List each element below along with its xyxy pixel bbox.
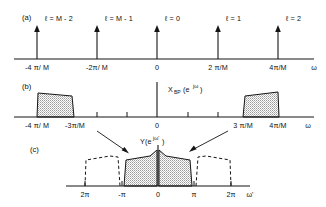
signal-label-main: Y(e: [140, 137, 152, 146]
panel-b-band-left: [37, 93, 74, 117]
pointer-right-line: [192, 131, 228, 150]
panel-b-signal-label: X BP (e jω ): [168, 83, 203, 95]
panel-a-axis-label: ω: [311, 63, 317, 72]
panel-c-band-dashed-right: [196, 156, 231, 186]
panel-b-tick-0: -4 π/ M: [25, 121, 49, 130]
panel-b: (b) X BP (e jω ) -4 π/ M: [14, 82, 314, 130]
panel-b-tick-1: -3π/M: [65, 121, 85, 130]
panel-a-tick-4: 4π/M: [269, 63, 286, 72]
pointer-right: [189, 131, 228, 152]
impulse-label-1: ℓ = M - 1: [104, 14, 133, 23]
signal-label-close: ): [162, 137, 165, 146]
panel-c-tick-0: 2π: [80, 190, 89, 199]
figure-container: (a) ℓ = M - 2 ℓ = M - 1 ℓ = 0 ℓ = 1 ℓ = …: [0, 0, 326, 207]
impulse-label-4: ℓ = 2: [285, 14, 301, 23]
panel-b-tick-4: 4π/M: [269, 121, 286, 130]
impulse-arrowhead: [275, 25, 281, 32]
figure-svg: (a) ℓ = M - 2 ℓ = M - 1 ℓ = 0 ℓ = 1 ℓ = …: [0, 0, 326, 207]
signal-label-main: X: [168, 85, 173, 94]
panel-a-impulse-group: [34, 25, 281, 59]
panel-a-tick-1: -2π/ M: [86, 63, 108, 72]
pointer-left-head: [122, 147, 130, 154]
panel-c: (c) Y(e jω' ): [30, 131, 254, 199]
signal-label-sub: BP: [174, 89, 181, 95]
pointer-right-head: [189, 146, 197, 152]
signal-label-rest: (e: [183, 85, 190, 94]
signal-label-sup: jω': [152, 135, 159, 141]
panel-c-tick-1: -π: [118, 190, 126, 199]
panel-c-tick-3: π: [191, 190, 196, 199]
pointer-left: [97, 131, 129, 154]
panel-b-axis-label: ω: [305, 121, 311, 130]
panel-b-tag: (b): [22, 82, 32, 91]
panel-a: (a) ℓ = M - 2 ℓ = M - 1 ℓ = 0 ℓ = 1 ℓ = …: [14, 13, 317, 72]
panel-c-band-left: [124, 150, 157, 186]
panel-c-band-right: [159, 150, 192, 186]
panel-b-tick-2: 0: [155, 121, 159, 130]
signal-label-sup: jω: [192, 83, 198, 89]
panel-c-axis-label: ω': [246, 190, 254, 199]
panel-a-tick-3: 2 π/M: [208, 63, 227, 72]
signal-label-close: ): [200, 85, 203, 94]
impulse-arrowhead: [94, 25, 100, 32]
impulse-label-3: ℓ = 1: [225, 14, 241, 23]
panel-a-tag: (a): [22, 13, 32, 22]
impulse-arrowhead: [154, 25, 160, 32]
impulse-label-2: ℓ = 0: [164, 14, 180, 23]
panel-a-tick-0: -4 π/ M: [25, 63, 49, 72]
panel-c-tick-2: 0: [156, 190, 160, 199]
impulse-label-0: ℓ = M - 2: [44, 14, 73, 23]
panel-b-tick-3: 3 π/M: [233, 121, 252, 130]
panel-c-band-dashed-left: [85, 156, 120, 186]
panel-c-tick-4: 2π: [226, 190, 235, 199]
panel-c-signal-label: Y(e jω' ): [140, 135, 165, 146]
panel-b-band-right: [243, 92, 279, 117]
impulse-arrowhead: [215, 25, 221, 32]
pointer-left-line: [97, 131, 126, 151]
panel-c-tag: (c): [30, 145, 39, 154]
panel-a-tick-2: 0: [155, 63, 159, 72]
impulse-arrowhead: [34, 25, 40, 32]
